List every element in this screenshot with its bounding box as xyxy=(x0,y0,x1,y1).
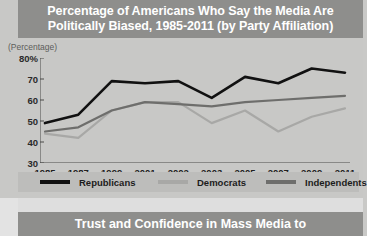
legend-label: Independents xyxy=(305,177,367,188)
legend-item-independents[interactable]: Independents xyxy=(266,177,367,188)
legend-label: Republicans xyxy=(79,177,136,188)
y-axis-label: 60 xyxy=(27,95,38,106)
chart-legend: RepublicansDemocratsIndependents xyxy=(18,172,359,192)
chart-panel-media-trust: Trust and Confidence in Mass Media to xyxy=(18,212,363,236)
series-line-democrats xyxy=(45,102,345,138)
line-chart xyxy=(40,58,350,163)
legend-swatch-icon xyxy=(158,180,188,184)
panel-divider xyxy=(0,198,363,212)
left-margin-strip xyxy=(0,198,18,236)
legend-swatch-icon xyxy=(266,180,296,184)
y-axis-label: 50 xyxy=(27,116,38,127)
chart-panel-media-bias: Percentage of Americans Who Say the Medi… xyxy=(0,0,363,198)
chart-title-line1: Percentage of Americans Who Say the Medi… xyxy=(47,4,333,18)
legend-swatch-icon xyxy=(40,180,70,184)
y-axis-label: 70 xyxy=(27,74,38,85)
chart-title-line2: Politically Biased, 1985-2011 (by Party … xyxy=(48,19,333,33)
series-line-republicans xyxy=(45,69,345,124)
chart-title-next: Trust and Confidence in Mass Media to xyxy=(75,217,306,231)
chart-title-bar: Percentage of Americans Who Say the Medi… xyxy=(18,0,363,38)
chart-title: Percentage of Americans Who Say the Medi… xyxy=(47,4,333,34)
line-chart-svg xyxy=(40,58,350,163)
legend-item-democrats[interactable]: Democrats xyxy=(158,177,246,188)
y-axis-tick-labels: 304050607080% xyxy=(0,58,38,163)
legend-label: Democrats xyxy=(197,177,246,188)
legend-item-republicans[interactable]: Republicans xyxy=(40,177,136,188)
y-axis-label: 80% xyxy=(19,53,38,64)
chart-axes xyxy=(40,58,350,163)
y-axis-label: 40 xyxy=(27,137,38,148)
y-axis-unit-label: (Percentage) xyxy=(8,42,57,52)
